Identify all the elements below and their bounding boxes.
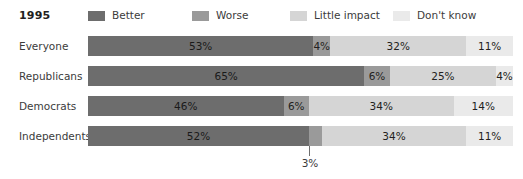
row-label: Everyone (19, 40, 68, 52)
bar-segment-dontknow: 11% (466, 36, 513, 56)
chart-row: Independents52%34%11% (0, 126, 523, 146)
row-label: Independents (19, 130, 91, 142)
bar-segment-dontknow: 14% (454, 96, 514, 116)
bar-segment-little: 25% (390, 66, 496, 86)
legend-swatch-dont-know (393, 11, 410, 21)
bar-segment-better: 46% (88, 96, 284, 116)
bar-segment-value: 4% (496, 70, 513, 82)
bar-segment-little: 32% (330, 36, 466, 56)
bar-segment-value: 52% (187, 130, 210, 142)
bar-segment-value: 34% (382, 130, 405, 142)
legend-swatch-worse (192, 11, 209, 21)
stacked-bar: 53%4%32%11% (88, 36, 513, 56)
legend-label-dont-know: Don't know (417, 10, 476, 21)
bar-segment-little: 34% (309, 96, 454, 116)
stacked-bar: 65%6%25%4% (88, 66, 513, 86)
chart-header: 1995 Better Worse Little impact Don't kn… (0, 0, 523, 30)
legend-swatch-better (88, 11, 105, 21)
year-label: 1995 (19, 9, 50, 22)
chart-row: Democrats46%6%34%14% (0, 96, 523, 116)
bar-segment-worse (309, 126, 322, 146)
bar-segment-value: 6% (288, 100, 305, 112)
legend-item-little-impact: Little impact (290, 9, 380, 22)
bar-segment-value: 53% (189, 40, 212, 52)
chart-row: Republicans65%6%25%4% (0, 66, 523, 86)
row-label: Republicans (19, 70, 82, 82)
bar-segment-dontknow: 11% (466, 126, 513, 146)
bar-segment-value: 14% (472, 100, 495, 112)
legend-item-worse: Worse (192, 9, 248, 22)
bar-segment-better: 53% (88, 36, 313, 56)
bar-segment-value: 4% (313, 40, 330, 52)
bar-segment-value: 34% (370, 100, 393, 112)
bar-segment-value: 65% (214, 70, 237, 82)
stacked-bar: 52%34%11% (88, 126, 513, 146)
legend-label-little-impact: Little impact (314, 10, 380, 21)
row-label: Democrats (19, 100, 76, 112)
bar-segment-better: 52% (88, 126, 309, 146)
bar-segment-value: 46% (174, 100, 197, 112)
bar-segment-value: 25% (431, 70, 454, 82)
bar-segment-value: 11% (478, 40, 501, 52)
legend-item-dont-know: Don't know (393, 9, 476, 22)
bar-segment-value: 6% (369, 70, 386, 82)
callout-leader-line (309, 146, 310, 156)
bar-segment-little: 34% (322, 126, 467, 146)
bar-segment-value: 11% (478, 130, 501, 142)
legend-label-worse: Worse (216, 10, 248, 21)
bar-segment-dontknow: 4% (496, 66, 513, 86)
bar-segment-better: 65% (88, 66, 364, 86)
legend-swatch-little-impact (290, 11, 307, 21)
bar-segment-worse: 6% (364, 66, 390, 86)
bar-segment-worse: 6% (284, 96, 310, 116)
chart-row: Everyone53%4%32%11% (0, 36, 523, 56)
stacked-bar: 46%6%34%14% (88, 96, 513, 116)
stacked-bar-chart: 1995 Better Worse Little impact Don't kn… (0, 0, 523, 179)
bar-segment-value: 32% (387, 40, 410, 52)
callout-label: 3% (292, 157, 328, 169)
legend-item-better: Better (88, 9, 145, 22)
legend-label-better: Better (112, 10, 145, 21)
bar-segment-worse: 4% (313, 36, 330, 56)
